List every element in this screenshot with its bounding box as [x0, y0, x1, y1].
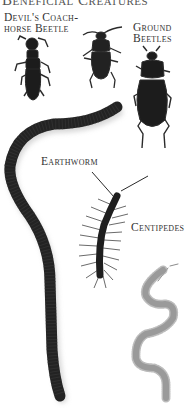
ground-beetle-large-image — [134, 46, 171, 148]
devils-coach-horse-beetle-image — [15, 36, 50, 100]
ground-beetle-image — [83, 27, 122, 88]
centipede-light-image — [136, 264, 178, 398]
illustration — [0, 0, 191, 409]
centipede-image — [79, 172, 148, 288]
